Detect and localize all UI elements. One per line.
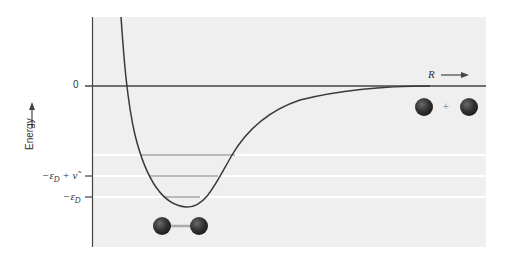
y-tick-eps: −εD — [63, 190, 81, 205]
atom — [190, 217, 208, 235]
eps-symbol: −ε — [63, 190, 75, 202]
potential-energy-diagram — [0, 0, 509, 260]
r-axis-label: R — [428, 68, 435, 80]
atom — [153, 217, 171, 235]
plot-panel — [92, 17, 486, 247]
y-tick-zero: 0 — [73, 79, 79, 90]
y-tick-eps-plus-nu: −εD + ν̃ — [42, 169, 77, 184]
eps-symbol: −ε — [42, 169, 54, 181]
atom-separated — [415, 98, 433, 116]
energy-arrow-head — [29, 102, 35, 110]
plus-sign: + — [443, 101, 449, 112]
atom-separated — [460, 98, 478, 116]
eps-sub: D — [75, 196, 81, 205]
nu-suffix: + ν̃ — [60, 169, 78, 181]
energy-axis-label: Energy — [24, 118, 35, 150]
